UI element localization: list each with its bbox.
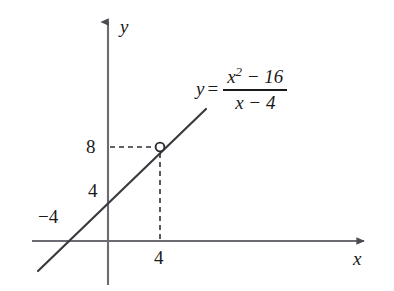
x-tick-label-minus-4: −4 <box>38 207 58 226</box>
graph-figure: y x 8 4 4 −4 y = x2 − 16 x − 4 <box>0 0 394 291</box>
equation-fraction: x2 − 16 x − 4 <box>223 63 287 115</box>
x-tick-label-4: 4 <box>154 248 164 267</box>
equation-lhs: y <box>196 78 204 100</box>
y-tick-label-8: 8 <box>86 137 96 156</box>
equation-annotation: y = x2 − 16 x − 4 <box>196 63 287 115</box>
function-line <box>38 109 206 271</box>
equation-denominator: x − 4 <box>231 91 279 115</box>
y-axis-label: y <box>120 17 128 36</box>
open-circle-hole-marker <box>156 143 165 152</box>
equation-numerator: x2 − 16 <box>223 63 287 89</box>
equation-equals-sign: = <box>207 78 218 100</box>
numerator-rest: − 16 <box>247 66 284 87</box>
x-axis-label: x <box>353 249 361 268</box>
y-tick-label-4: 4 <box>88 181 98 200</box>
plot-canvas <box>0 0 394 291</box>
numerator-variable: x <box>227 66 235 87</box>
